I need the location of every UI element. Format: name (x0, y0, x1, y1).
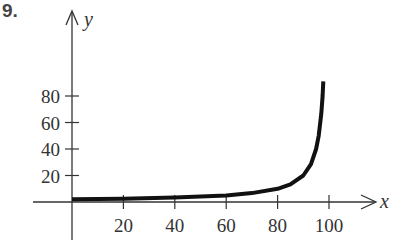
chart: xy2040608010020406080 (0, 0, 393, 242)
x-axis-label: x (379, 190, 389, 212)
y-tick-label: 20 (41, 166, 60, 187)
x-tick-label: 20 (114, 215, 133, 236)
x-tick-label: 80 (268, 215, 287, 236)
y-tick-label: 40 (41, 139, 60, 160)
y-axis-label: y (82, 8, 93, 31)
x-tick-label: 100 (315, 215, 344, 236)
y-tick-label: 80 (41, 86, 60, 107)
y-tick-label: 60 (41, 113, 60, 134)
x-tick-label: 40 (165, 215, 184, 236)
data-curve (72, 81, 323, 199)
x-tick-label: 60 (217, 215, 236, 236)
